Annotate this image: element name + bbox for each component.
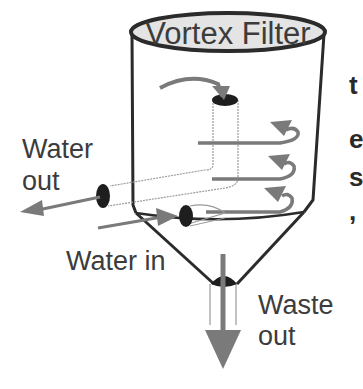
intake-flow-arrow	[160, 79, 222, 96]
waste-out-label-line1: Waste	[258, 290, 334, 320]
cropped-text-fragment-3: s	[349, 164, 363, 190]
inlet-pipe	[179, 205, 225, 227]
filter-lid: Vortex Filter	[131, 13, 325, 51]
title-label: Vortex Filter	[145, 16, 310, 51]
outlet-pipe	[96, 94, 238, 208]
waste-out-arrowhead-icon	[205, 330, 241, 369]
cropped-text-fragment-2: e	[349, 126, 363, 152]
water-in-label: Water in	[66, 246, 166, 276]
water-out-label-line2: out	[22, 166, 60, 196]
cylinder-left-wall	[132, 34, 136, 213]
water-in-arrowhead-icon	[156, 208, 178, 226]
cylinder-right-wall	[304, 34, 324, 212]
waste-out-label-line2: out	[258, 321, 296, 351]
cropped-text-fragment-4: ,	[349, 198, 356, 224]
inlet-pipe-end	[179, 205, 193, 227]
water-out-arrow	[38, 197, 100, 210]
waste-outlet	[205, 254, 241, 369]
water-out-arrowhead-icon	[20, 200, 44, 216]
cone-right	[237, 212, 304, 284]
cropped-text-fragment-1: t	[349, 72, 358, 98]
water-out-label-line1: Water	[22, 134, 93, 164]
